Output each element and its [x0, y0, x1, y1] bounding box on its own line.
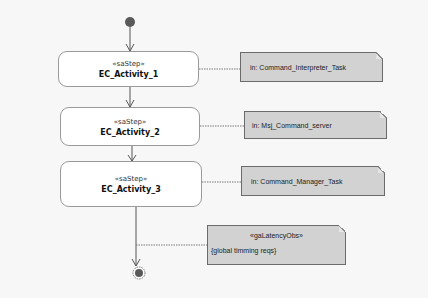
note-command-interpreter-task[interactable]: in: Command_Interpreter_Task — [240, 52, 383, 82]
activity-stereotype: «saStep» — [59, 60, 198, 69]
activity-stereotype: «saStep» — [61, 118, 199, 127]
note-anchors — [136, 69, 244, 245]
note-fold-corner — [378, 166, 385, 173]
note-stereotype: «gaLatencyObs» — [208, 232, 345, 239]
note-command-manager-task[interactable]: in: Command_Manager_Task — [241, 166, 385, 196]
activity-ec-activity-1[interactable]: «saStep» EC_Activity_1 — [58, 51, 199, 87]
activity-ec-activity-3[interactable]: «saStep» EC_Activity_3 — [60, 161, 202, 207]
note-fold-corner — [339, 225, 346, 232]
final-node[interactable] — [133, 267, 145, 279]
note-fold-corner — [376, 52, 383, 59]
note-text: in: Msj_Command_server — [252, 122, 332, 129]
note-text: in: Command_Manager_Task — [251, 178, 342, 185]
initial-node[interactable] — [125, 17, 135, 27]
control-flow-initial-to-activity-1 — [126, 27, 134, 51]
activity-ec-activity-2[interactable]: «saStep» EC_Activity_2 — [60, 107, 200, 146]
control-flow-activity-2-to-activity-3 — [128, 146, 136, 161]
activity-name: EC_Activity_1 — [59, 69, 198, 80]
activity-stereotype: «saStep» — [61, 175, 201, 184]
note-text: {global timming reqs} — [211, 247, 276, 254]
note-msj-command-server[interactable]: in: Msj_Command_server — [244, 111, 387, 139]
activity-name: EC_Activity_2 — [61, 127, 199, 138]
control-flow-activity-1-to-activity-2 — [126, 87, 134, 107]
note-fold-corner — [380, 111, 387, 118]
note-latency-observation[interactable]: «gaLatencyObs» {global timming reqs} — [207, 225, 346, 265]
control-flow-activity-3-to-final — [132, 207, 140, 266]
activity-name: EC_Activity_3 — [61, 184, 201, 195]
note-text: in: Command_Interpreter_Task — [250, 64, 346, 71]
